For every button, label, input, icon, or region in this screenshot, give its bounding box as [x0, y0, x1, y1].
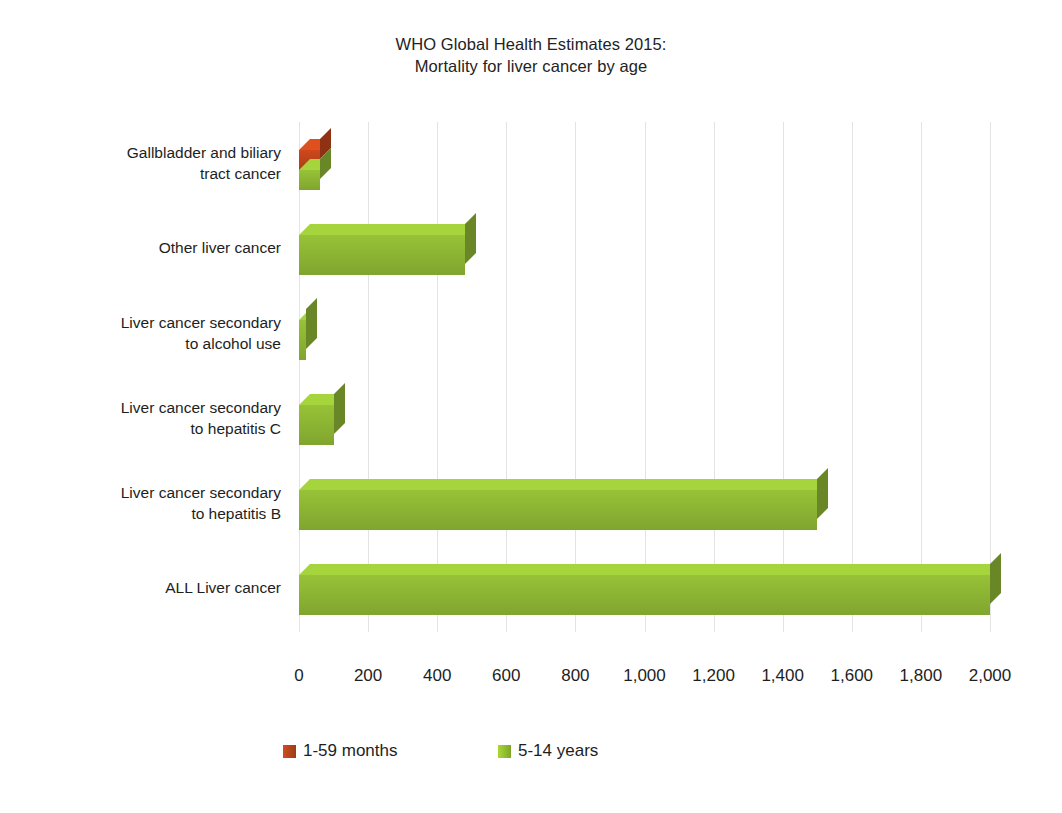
category-label-line: to alcohol use	[36, 333, 281, 354]
bar-front-face	[299, 575, 990, 615]
gridline	[714, 122, 715, 632]
legend-swatch	[498, 745, 511, 758]
category-label: Other liver cancer	[36, 237, 281, 258]
chart-title: WHO Global Health Estimates 2015: Mortal…	[0, 33, 1062, 77]
category-label-line: to hepatitis B	[36, 503, 281, 524]
category-label-line: Liver cancer secondary	[36, 312, 281, 333]
legend-swatch	[283, 745, 296, 758]
chart-title-line-1: WHO Global Health Estimates 2015:	[0, 33, 1062, 55]
tick-label: 0	[294, 666, 303, 686]
gridline	[645, 122, 646, 632]
tick-label: 1,800	[900, 666, 943, 686]
tick-label: 800	[561, 666, 589, 686]
tick-label: 400	[423, 666, 451, 686]
bar-front-face	[299, 490, 817, 530]
chart-title-line-2: Mortality for liver cancer by age	[0, 55, 1062, 77]
category-label-line: to hepatitis C	[36, 418, 281, 439]
tick-label: 1,200	[692, 666, 735, 686]
category-label: Liver cancer secondaryto hepatitis C	[36, 397, 281, 439]
gridline	[990, 122, 991, 632]
category-label-line: ALL Liver cancer	[36, 577, 281, 598]
legend-label: 1-59 months	[303, 742, 398, 760]
bar-side-face	[990, 553, 1001, 604]
bar-5-14-years	[299, 320, 306, 360]
bar-top-face	[299, 479, 828, 490]
tick-label: 1,400	[761, 666, 804, 686]
category-label: Gallbladder and biliarytract cancer	[36, 142, 281, 184]
legend-item[interactable]: 5-14 years	[498, 742, 598, 760]
bar-5-14-years	[299, 405, 334, 445]
gridline	[437, 122, 438, 632]
plot-area	[299, 122, 990, 632]
category-label: Liver cancer secondaryto alcohol use	[36, 312, 281, 354]
category-label-line: Liver cancer secondary	[36, 482, 281, 503]
tick-label: 200	[354, 666, 382, 686]
bar-front-face	[299, 235, 465, 275]
legend-item[interactable]: 1-59 months	[283, 742, 398, 760]
bar-top-face	[299, 224, 476, 235]
category-label: ALL Liver cancer	[36, 577, 281, 598]
gridline	[368, 122, 369, 632]
bar-front-face	[299, 405, 334, 445]
bar-front-face	[299, 320, 306, 360]
tick-label: 1,600	[831, 666, 874, 686]
gridline	[575, 122, 576, 632]
bar-front-face	[299, 170, 320, 190]
gridline	[921, 122, 922, 632]
gridline	[852, 122, 853, 632]
tick-label: 600	[492, 666, 520, 686]
bar-top-face	[299, 564, 1001, 575]
gridline	[783, 122, 784, 632]
bar-5-14-years	[299, 575, 990, 615]
bar-5-14-years	[299, 170, 320, 190]
legend-label: 5-14 years	[518, 742, 598, 760]
category-label-line: tract cancer	[36, 163, 281, 184]
tick-label: 1,000	[623, 666, 666, 686]
category-label-line: Liver cancer secondary	[36, 397, 281, 418]
category-label-line: Other liver cancer	[36, 237, 281, 258]
bar-5-14-years	[299, 235, 465, 275]
category-label-line: Gallbladder and biliary	[36, 142, 281, 163]
tick-label: 2,000	[969, 666, 1012, 686]
chart-container: WHO Global Health Estimates 2015: Mortal…	[0, 0, 1062, 813]
gridline	[299, 122, 300, 632]
category-label: Liver cancer secondaryto hepatitis B	[36, 482, 281, 524]
bar-5-14-years	[299, 490, 817, 530]
gridline	[506, 122, 507, 632]
